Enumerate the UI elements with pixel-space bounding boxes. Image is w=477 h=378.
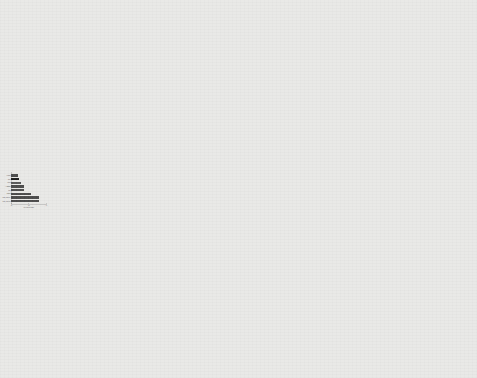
bar-kudu [11,178,19,180]
bar-baboon [11,193,31,195]
bar-hyrax-species-2 [11,200,38,202]
bar-hare [11,189,24,191]
figure-panel: 0.0 0.5 1.0 Sr/Ca ratio in fossils Leopa… [0,0,477,378]
bar-a-robustus [11,185,23,187]
category-label-kudu: Kudu [8,179,11,180]
plot-background [0,169,52,210]
category-label-hyena: Hyena [7,182,11,183]
bar-hyena [11,182,20,184]
bar-hyrax-species-1 [11,196,38,198]
category-label-leopard: Leopard [7,175,12,176]
bar-chart: 0.0 0.5 1.0 Sr/Ca ratio in fossils Leopa… [0,0,52,378]
category-label-baboon: Baboon [7,193,11,194]
bar-leopard [11,174,18,176]
